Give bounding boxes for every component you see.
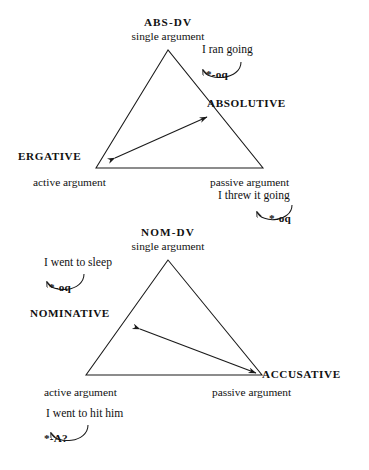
ergative-label: ERGATIVE bbox=[18, 150, 81, 162]
lower-dv-label: NOM-DV bbox=[141, 226, 195, 238]
upper-dv-sublabel: single argument bbox=[132, 30, 205, 42]
lower-top-morpheme: *-oq bbox=[49, 281, 71, 293]
lower-top-gloss: I went to sleep bbox=[44, 257, 112, 270]
absolutive-label: ABSOLUTIVE bbox=[207, 97, 286, 109]
lower-bottom-gloss: I went to hit him bbox=[46, 408, 123, 421]
absolutive-sublabel: passive argument bbox=[210, 176, 289, 188]
nominative-sublabel: active argument bbox=[44, 386, 117, 398]
lower-bidirectional-arrow bbox=[140, 329, 256, 373]
ergative-sublabel: active argument bbox=[33, 176, 106, 188]
upper-top-morpheme: *-oq bbox=[206, 68, 228, 80]
upper-bidirectional-arrow bbox=[115, 117, 207, 158]
lower-bottom-morpheme: *-A? bbox=[44, 432, 68, 444]
lower-dv-sublabel: single argument bbox=[132, 240, 205, 252]
accusative-sublabel: passive argument bbox=[212, 386, 291, 398]
lower-triangle bbox=[86, 260, 262, 375]
upper-bottom-morpheme: *-oq bbox=[269, 212, 291, 224]
upper-bottom-gloss: I threw it going bbox=[218, 190, 290, 203]
diagram-root: ABS-DV single argument I ran going *-oq … bbox=[0, 0, 369, 470]
accusative-label: ACCUSATIVE bbox=[262, 368, 341, 380]
nominative-label: NOMINATIVE bbox=[30, 307, 110, 319]
upper-top-gloss: I ran going bbox=[202, 44, 253, 57]
upper-dv-label: ABS-DV bbox=[144, 16, 192, 28]
